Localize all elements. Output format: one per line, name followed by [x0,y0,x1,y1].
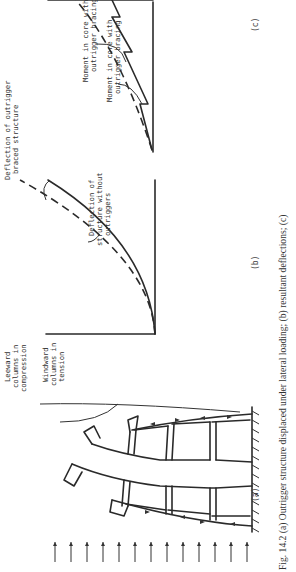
panel-c-moments: Moment in core with outrigger bracing Mo… [48,0,260,152]
ground-support [252,407,259,532]
unbraced-label-3: outriggers [103,193,112,236]
deformed-frame [64,414,252,526]
figure-canvas: Leeward columns in compression Windward … [0,0,296,572]
without-bracing-label-2: outrigger bracing [89,0,98,72]
braced-label-2: braced structure [11,105,20,174]
panel-c-label: (c) [251,18,260,32]
panel-a-outrigger-structure: Leeward columns in compression Windward … [3,343,260,562]
panel-b-deflections: Deflection of outrigger braced structure… [3,80,260,334]
figure-caption: Fig. 14.2 (a) Outrigger structure displa… [277,215,289,570]
lateral-load-arrows [53,542,249,562]
panel-a-label: (a) [251,488,260,502]
windward-leader [40,404,240,412]
windward-label-3: tension [57,352,66,382]
with-bracing-label-2: outrigger bracing [113,20,122,94]
braced-leader [44,180,50,200]
leeward-leader [60,404,118,422]
leeward-label-3: compression [19,344,28,392]
panel-b-label: (b) [251,256,260,270]
